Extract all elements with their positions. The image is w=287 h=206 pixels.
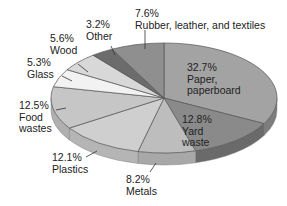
label-paper: 32.7% Paper, paperboard: [187, 62, 241, 97]
pie-chart: 32.7% Paper, paperboard 12.8% Yard waste…: [0, 0, 287, 206]
label-rubber-leather-textiles: 7.6% Rubber, leather, and textiles: [135, 8, 265, 31]
label-food-wastes: 12.5% Food wastes: [19, 100, 52, 135]
label-wood: 5.6% Wood: [50, 33, 77, 56]
label-other: 3.2% Other: [86, 19, 112, 42]
label-plastics: 12.1% Plastics: [52, 152, 88, 175]
label-glass: 5.3% Glass: [27, 57, 54, 80]
pie-slices: [51, 43, 277, 153]
label-yard-waste: 12.8% Yard waste: [182, 114, 212, 149]
label-metals: 8.2% Metals: [126, 174, 157, 197]
